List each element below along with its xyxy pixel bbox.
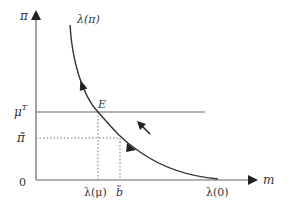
y-axis [31,10,41,180]
diagonal-arrow-shaft [142,126,150,134]
curve-up-arrow-icon [77,79,88,91]
mu-t-label: μT [14,103,28,119]
equilibrium-label: E [97,98,106,111]
x-axis-label: m [263,173,274,187]
x-axis [36,175,258,185]
lambda-zero-label: λ(0) [206,186,229,199]
b-tilde-label: b̃ [116,185,123,199]
lambda-mu-label: λ(μ) [84,186,107,199]
diagram-canvas: π m 0 μT π̃ λ(π) E λ(μ) b̃ λ(0) [0,0,293,207]
y-axis-arrow-icon [31,10,41,20]
y-axis-label: π [19,9,29,23]
lambda-pi-curve [70,25,218,179]
curve-label: λ(π) [76,13,100,26]
origin-label: 0 [19,176,26,189]
x-axis-arrow-icon [248,175,258,185]
pi-tilde-label: π̃ [16,131,26,145]
